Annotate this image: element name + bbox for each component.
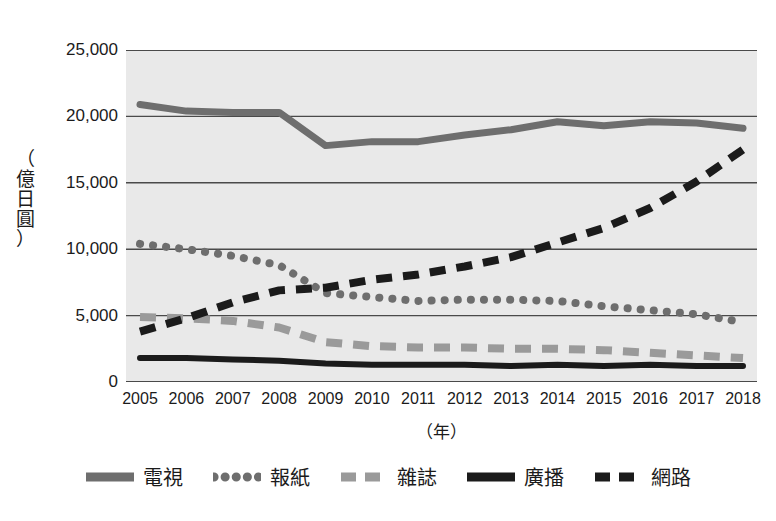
x-axis-tick-label: 2007 (215, 390, 251, 408)
y-axis-tick-label: 25,000 (32, 40, 118, 60)
y-axis-tick-label: 10,000 (32, 239, 118, 259)
chart-figure: （ 億 日 圓 ） 05,00010,00015,00020,00025,000… (0, 0, 776, 521)
x-axis-title: （年） (126, 418, 757, 443)
y-axis-tick-labels: 05,00010,00015,00020,00025,000 (32, 0, 118, 521)
x-axis-tick-label: 2009 (308, 390, 344, 408)
legend-swatch-icon (213, 469, 261, 485)
x-axis-tick-label: 2006 (169, 390, 205, 408)
legend-item[interactable]: 雜誌 (340, 462, 437, 491)
legend-swatch-icon (594, 469, 642, 485)
legend-swatch-icon (467, 469, 515, 485)
legend-swatch-icon (340, 469, 388, 485)
plot-area (126, 50, 757, 382)
plot-svg (126, 50, 757, 382)
series-line (140, 150, 743, 332)
y-axis-tick-label: 5,000 (32, 306, 118, 326)
x-axis-tick-label: 2015 (586, 390, 622, 408)
legend-item[interactable]: 報紙 (213, 462, 310, 491)
legend-label: 雜誌 (397, 462, 437, 491)
legend-item[interactable]: 廣播 (467, 462, 564, 491)
chart-legend: 電視報紙雜誌廣播網路 (0, 462, 776, 491)
x-axis-tick-labels: 2005200620072008200920102011201220132014… (126, 390, 757, 414)
x-axis-tick-label: 2016 (632, 390, 668, 408)
series-line (140, 244, 743, 322)
legend-swatch-icon (86, 469, 134, 485)
legend-item[interactable]: 電視 (86, 462, 183, 491)
legend-label: 廣播 (524, 462, 564, 491)
x-axis-tick-label: 2010 (354, 390, 390, 408)
series-line (140, 104, 743, 145)
x-axis-tick-label: 2013 (493, 390, 529, 408)
legend-label: 報紙 (270, 462, 310, 491)
x-axis-tick-label: 2008 (261, 390, 297, 408)
y-axis-tick-label: 20,000 (32, 106, 118, 126)
y-axis-tick-label: 15,000 (32, 173, 118, 193)
legend-item[interactable]: 網路 (594, 462, 691, 491)
x-axis-tick-label: 2005 (122, 390, 158, 408)
y-axis-tick-label: 0 (32, 372, 118, 392)
x-axis-tick-label: 2017 (679, 390, 715, 408)
x-axis-tick-label: 2014 (540, 390, 576, 408)
legend-label: 電視 (143, 462, 183, 491)
series-line (140, 358, 743, 366)
x-axis-tick-label: 2018 (725, 390, 761, 408)
x-axis-tick-label: 2012 (447, 390, 483, 408)
legend-label: 網路 (651, 462, 691, 491)
x-axis-tick-label: 2011 (401, 390, 435, 408)
series-line (140, 317, 743, 358)
